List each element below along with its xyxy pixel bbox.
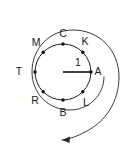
point-dot-M: [42, 51, 45, 54]
circle-spiral-diagram: A K C M T R B L 1: [0, 0, 134, 152]
point-dot-C: [61, 42, 64, 45]
point-dot-T: [33, 70, 36, 73]
point-dot-B: [61, 98, 64, 101]
point-label-B: B: [59, 106, 66, 118]
point-label-A: A: [94, 65, 101, 77]
point-label-K: K: [81, 35, 88, 47]
point-dot-K: [81, 51, 84, 54]
point-label-R: R: [31, 94, 39, 106]
point-label-M: M: [32, 36, 41, 48]
radius-length-label: 1: [75, 56, 81, 68]
outer-spiral-path: [32, 30, 119, 132]
point-label-C: C: [59, 27, 67, 39]
point-label-L: L: [83, 96, 89, 108]
spiral-arrowhead-icon: [62, 137, 70, 144]
point-dot-R: [42, 90, 45, 93]
figure-canvas: A K C M T R B L 1: [0, 0, 134, 152]
point-dot-A: [89, 70, 92, 73]
point-label-T: T: [16, 65, 23, 77]
point-dot-L: [81, 90, 84, 93]
